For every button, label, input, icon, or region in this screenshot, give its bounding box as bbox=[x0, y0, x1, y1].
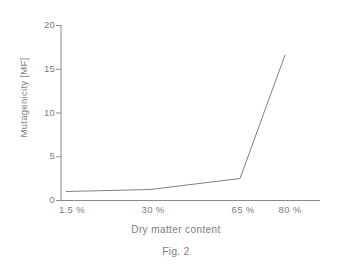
x-axis-title: Dry matter content bbox=[0, 224, 352, 235]
figure-caption: Fig. 2 bbox=[0, 246, 352, 257]
figure-container: Mutagenicity [MF] 20 15 10 5 0 1.5 % 30 … bbox=[0, 0, 352, 271]
x-tick-label-3: 65 % bbox=[232, 204, 255, 215]
x-tick-label-1: 1.5 % bbox=[59, 204, 85, 215]
data-line-mutagenicity bbox=[66, 55, 285, 192]
x-tick-label-2: 30 % bbox=[142, 204, 165, 215]
x-tick-label-4: 80 % bbox=[279, 204, 302, 215]
